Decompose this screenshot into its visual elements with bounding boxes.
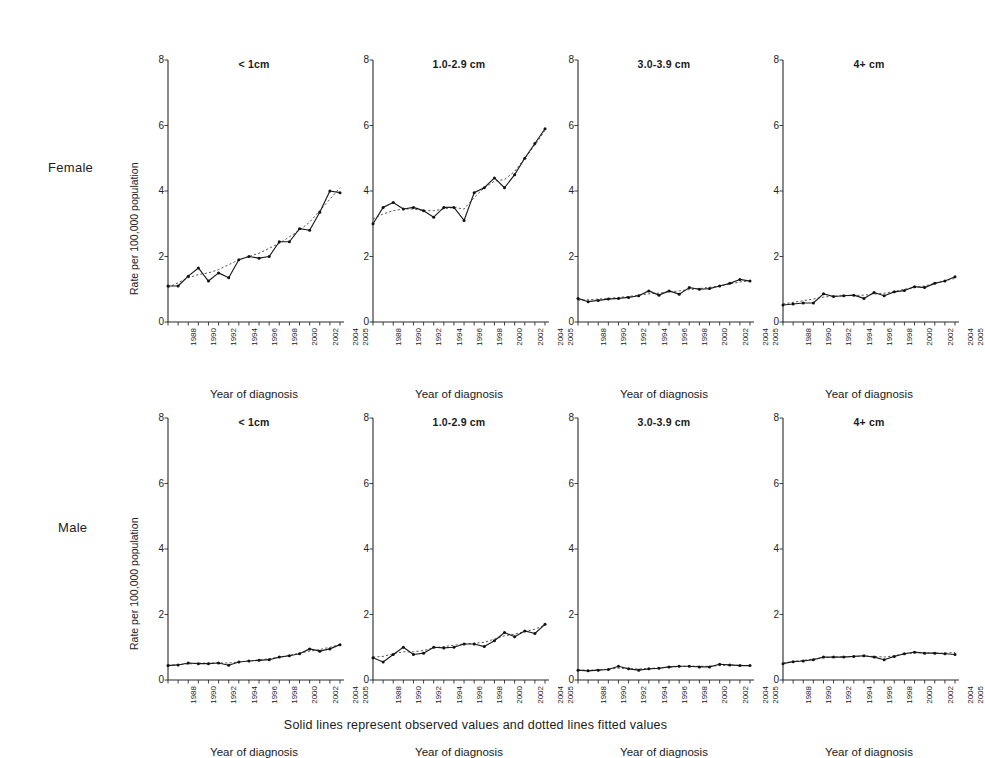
data-point-marker [533, 632, 536, 635]
data-point-marker [422, 209, 425, 212]
data-point-marker [913, 285, 916, 288]
y-tick-label: 0 [158, 675, 164, 685]
data-point-marker [577, 669, 580, 672]
x-tick-label: 2002 [535, 328, 544, 346]
data-point-marker [288, 240, 291, 243]
data-point-marker [187, 661, 190, 664]
data-point-marker [308, 647, 311, 650]
axis-lines [783, 60, 959, 322]
x-tick-label: 1988 [189, 686, 198, 704]
series-observed-line [578, 279, 750, 301]
x-axis-label: Year of diagnosis [373, 388, 545, 400]
y-tick-label: 8 [363, 55, 369, 65]
x-tick-label: 1992 [434, 328, 443, 346]
x-tick-label: 1998 [290, 328, 299, 346]
axis-lines [783, 418, 959, 680]
x-tick-label: 2004 [966, 686, 975, 704]
data-point-marker [627, 667, 630, 670]
x-tick-label: 1990 [619, 328, 628, 346]
data-point-marker [943, 280, 946, 283]
x-tick-label: 1988 [804, 328, 813, 346]
x-tick-label: 2005 [771, 328, 780, 346]
y-tick-label: 0 [568, 317, 574, 327]
data-point-marker [842, 656, 845, 659]
series-fitted-line [578, 281, 750, 301]
x-tick-label: 1998 [495, 686, 504, 704]
data-point-marker [207, 280, 210, 283]
data-point-marker [728, 663, 731, 666]
x-tick-label: 1996 [680, 328, 689, 346]
plot-area [168, 60, 346, 330]
data-point-marker [513, 173, 516, 176]
data-point-marker [749, 664, 752, 667]
data-point-marker [197, 662, 200, 665]
data-point-marker [523, 157, 526, 160]
y-tick-label: 4 [158, 544, 164, 554]
data-point-marker [913, 651, 916, 654]
y-axis-label-female: Rate per 100,000 population [128, 162, 140, 295]
y-tick-label: 4 [568, 186, 574, 196]
x-tick-label: 1990 [414, 686, 423, 704]
data-point-marker [862, 297, 865, 300]
data-point-marker [812, 302, 815, 305]
y-tick-label: 6 [158, 479, 164, 489]
x-tick-label: 1992 [229, 328, 238, 346]
data-point-marker [167, 664, 170, 667]
data-point-marker [738, 664, 741, 667]
data-point-marker [688, 665, 691, 668]
data-point-marker [442, 646, 445, 649]
data-point-marker [822, 292, 825, 295]
x-tick-label: 2005 [361, 686, 370, 704]
x-tick-label: 1994 [455, 686, 464, 704]
data-point-marker [698, 288, 701, 291]
x-tick-label: 1994 [250, 686, 259, 704]
data-point-marker [328, 190, 331, 193]
data-point-marker [177, 284, 180, 287]
data-point-marker [533, 142, 536, 145]
y-tick-label: 6 [363, 479, 369, 489]
chart-panel-male-2: 1.0-2.9 cm024681988199019921994199619982… [373, 418, 545, 680]
data-point-marker [708, 665, 711, 668]
x-tick-label: 1990 [824, 686, 833, 704]
data-point-marker [738, 278, 741, 281]
y-tick-label: 8 [568, 55, 574, 65]
data-point-marker [954, 653, 957, 656]
x-tick-label: 1992 [229, 686, 238, 704]
x-tick-label: 2002 [535, 686, 544, 704]
data-point-marker [382, 206, 385, 209]
x-tick-label: 2002 [945, 686, 954, 704]
x-tick-label: 1994 [865, 328, 874, 346]
data-point-marker [392, 653, 395, 656]
data-point-marker [503, 186, 506, 189]
plot-area [578, 60, 756, 330]
data-point-marker [402, 646, 405, 649]
data-point-marker [544, 127, 547, 130]
data-point-marker [207, 662, 210, 665]
x-tick-label: 1990 [209, 686, 218, 704]
data-point-marker [862, 654, 865, 657]
data-point-marker [493, 176, 496, 179]
x-tick-label: 2002 [330, 328, 339, 346]
data-point-marker [258, 257, 261, 260]
x-tick-label: 2000 [310, 686, 319, 704]
y-tick-label: 4 [363, 544, 369, 554]
data-point-marker [278, 240, 281, 243]
x-tick-label: 2005 [976, 686, 985, 704]
y-tick-label: 4 [158, 186, 164, 196]
data-point-marker [544, 623, 547, 626]
data-point-marker [782, 303, 785, 306]
x-tick-label: 1998 [700, 686, 709, 704]
plot-area [373, 418, 551, 688]
x-tick-label: 1990 [824, 328, 833, 346]
x-tick-label: 1994 [660, 328, 669, 346]
series-observed-line [783, 277, 955, 305]
figure-caption: Solid lines represent observed values an… [0, 718, 951, 732]
axis-lines [168, 60, 344, 322]
y-tick-label: 0 [363, 317, 369, 327]
axis-lines [373, 418, 549, 680]
y-axis-label-male: Rate per 100,000 population [128, 517, 140, 650]
data-point-marker [647, 289, 650, 292]
x-tick-label: 1996 [680, 686, 689, 704]
y-tick-label: 8 [363, 413, 369, 423]
data-point-marker [954, 275, 957, 278]
